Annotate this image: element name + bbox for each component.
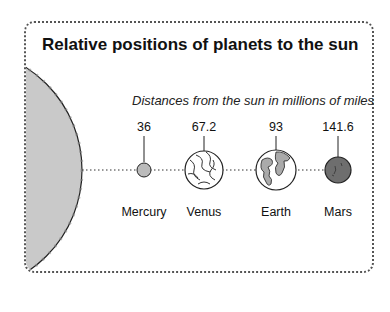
mercury-icon bbox=[137, 163, 151, 177]
venus-icon bbox=[185, 151, 223, 189]
venus-distance: 67.2 bbox=[192, 120, 216, 134]
mars-distance: 141.6 bbox=[322, 120, 353, 134]
mars-icon bbox=[325, 157, 351, 183]
diagram-art bbox=[0, 0, 390, 312]
venus-label: Venus bbox=[187, 205, 222, 219]
earth-distance: 93 bbox=[269, 120, 283, 134]
mercury-label: Mercury bbox=[121, 205, 166, 219]
earth-label: Earth bbox=[261, 205, 291, 219]
mars-label: Mars bbox=[324, 205, 352, 219]
sun-icon bbox=[0, 48, 82, 292]
mercury-distance: 36 bbox=[137, 120, 151, 134]
earth-icon bbox=[256, 150, 296, 190]
